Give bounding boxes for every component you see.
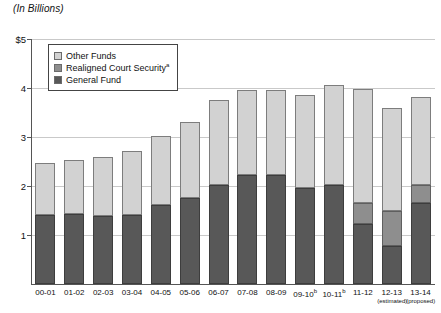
bar-group[interactable]	[353, 39, 373, 284]
x-axis-label: 08-09	[262, 288, 291, 297]
x-axis-label: 09-10b	[291, 288, 320, 299]
legend-swatch-icon	[54, 64, 62, 72]
bar-segment-general-fund[interactable]	[411, 203, 431, 284]
bar-group[interactable]	[180, 39, 200, 284]
bar-segment-other-funds[interactable]	[151, 136, 171, 205]
bar-segment-other-funds[interactable]	[35, 163, 55, 215]
bar-segment-general-fund[interactable]	[295, 188, 315, 284]
y-axis-tick-label: 3	[21, 132, 26, 143]
bar-segment-other-funds[interactable]	[209, 100, 229, 185]
gridline	[31, 186, 435, 187]
legend-swatch-icon	[54, 52, 62, 60]
bar-segment-realigned-court-security[interactable]	[353, 203, 373, 224]
legend-label: Other Funds	[66, 51, 116, 61]
bar-segment-general-fund[interactable]	[237, 175, 257, 284]
bar-segment-other-funds[interactable]	[382, 108, 402, 211]
bar-segment-general-fund[interactable]	[382, 246, 402, 284]
y-axis-tick-mark	[27, 186, 32, 187]
y-axis-tick-mark	[27, 235, 32, 236]
y-axis-tick: 1	[31, 235, 32, 236]
gridline	[31, 39, 435, 40]
legend-swatch-icon	[54, 76, 62, 84]
bar-segment-other-funds[interactable]	[237, 90, 257, 175]
x-axis-label: 12-13	[377, 288, 406, 297]
y-axis-tick-label: 2	[21, 181, 26, 192]
bar-group[interactable]	[324, 39, 344, 284]
bar-group[interactable]	[209, 39, 229, 284]
y-axis-tick-mark	[27, 137, 32, 138]
bar-segment-general-fund[interactable]	[209, 185, 229, 284]
bar-segment-general-fund[interactable]	[151, 205, 171, 284]
legend-label: General Fund	[66, 75, 121, 85]
x-axis-label: 02-03	[89, 288, 118, 297]
bar-segment-other-funds[interactable]	[266, 90, 286, 175]
legend-item: General Fund	[54, 75, 169, 85]
x-axis-label: 06-07	[204, 288, 233, 297]
y-axis-tick: 2	[31, 186, 32, 187]
legend-label-footnote: a	[166, 62, 169, 68]
bar-segment-other-funds[interactable]	[353, 89, 373, 203]
y-axis-tick: 3	[31, 137, 32, 138]
bar-segment-general-fund[interactable]	[64, 214, 84, 284]
x-axis-line	[31, 284, 435, 285]
x-axis-label: 03-04	[118, 288, 147, 297]
gridline	[31, 137, 435, 138]
x-axis-label: 01-02	[60, 288, 89, 297]
gridline	[31, 235, 435, 236]
x-axis-label: 07-08	[233, 288, 262, 297]
bar-group[interactable]	[295, 39, 315, 284]
bar-segment-realigned-court-security[interactable]	[382, 211, 402, 246]
bar-segment-general-fund[interactable]	[180, 198, 200, 284]
bar-segment-general-fund[interactable]	[35, 215, 55, 284]
bar-segment-general-fund[interactable]	[324, 185, 344, 284]
bar-segment-other-funds[interactable]	[295, 95, 315, 188]
bar-segment-realigned-court-security[interactable]	[411, 185, 431, 203]
y-axis-tick: $5	[31, 39, 32, 40]
x-axis-label: 05-06	[175, 288, 204, 297]
bar-segment-general-fund[interactable]	[266, 175, 286, 284]
x-axis-label-footnote: b	[342, 288, 345, 294]
legend-item: Other Funds	[54, 51, 169, 61]
stacked-bar-chart: (In Billions) 1234$5 00-0101-0202-0303-0…	[0, 0, 441, 313]
bar-group[interactable]	[266, 39, 286, 284]
bar-segment-other-funds[interactable]	[324, 85, 344, 185]
bar-segment-general-fund[interactable]	[122, 215, 142, 284]
x-axis-label: 13-14	[406, 288, 435, 297]
y-axis-tick-label: 1	[21, 230, 26, 241]
x-axis-sublabel: (proposed)	[406, 298, 435, 304]
x-axis-label: 04-05	[146, 288, 175, 297]
y-axis-tick: 4	[31, 88, 32, 89]
chart-title: (In Billions)	[13, 3, 64, 14]
chart-legend: Other FundsRealigned Court SecurityaGene…	[48, 44, 178, 91]
x-axis-sublabel: (estimated)	[377, 298, 406, 304]
bar-segment-other-funds[interactable]	[411, 97, 431, 185]
bar-group[interactable]	[382, 39, 402, 284]
x-axis-label: 10-11b	[320, 288, 349, 299]
y-axis-tick-mark	[27, 39, 32, 40]
legend-item: Realigned Court Securitya	[54, 62, 169, 73]
x-axis-label-footnote: b	[314, 288, 317, 294]
legend-label: Realigned Court Securitya	[66, 62, 169, 73]
bar-group[interactable]	[411, 39, 431, 284]
bar-segment-other-funds[interactable]	[64, 160, 84, 214]
bar-segment-other-funds[interactable]	[122, 151, 142, 215]
y-axis-tick-mark	[27, 88, 32, 89]
y-axis-tick-label: $5	[15, 34, 26, 45]
bar-segment-general-fund[interactable]	[93, 216, 113, 284]
bar-segment-other-funds[interactable]	[180, 122, 200, 197]
bar-segment-general-fund[interactable]	[353, 224, 373, 284]
x-axis-label: 00-01	[31, 288, 60, 297]
bar-group[interactable]	[237, 39, 257, 284]
bar-segment-other-funds[interactable]	[93, 157, 113, 216]
x-axis-label: 11-12	[348, 288, 377, 297]
y-axis-tick-label: 4	[21, 83, 26, 94]
